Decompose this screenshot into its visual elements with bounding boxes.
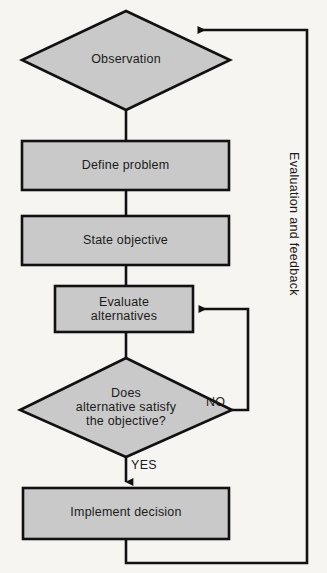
node-observation-shape bbox=[22, 11, 230, 110]
node-state-objective-shape bbox=[22, 216, 229, 265]
edge-no-loop bbox=[199, 309, 248, 410]
node-define-problem-shape bbox=[22, 141, 229, 190]
node-implement-decision-shape bbox=[23, 488, 229, 539]
flowchart-graphics bbox=[0, 0, 327, 573]
node-evaluate-alternatives-shape bbox=[55, 286, 193, 332]
flowchart-canvas: Observation Define problem State objecti… bbox=[0, 0, 327, 573]
edge-label-evaluation-and-feedback: Evaluation and feedback bbox=[287, 152, 301, 296]
node-decision-shape bbox=[20, 358, 232, 457]
